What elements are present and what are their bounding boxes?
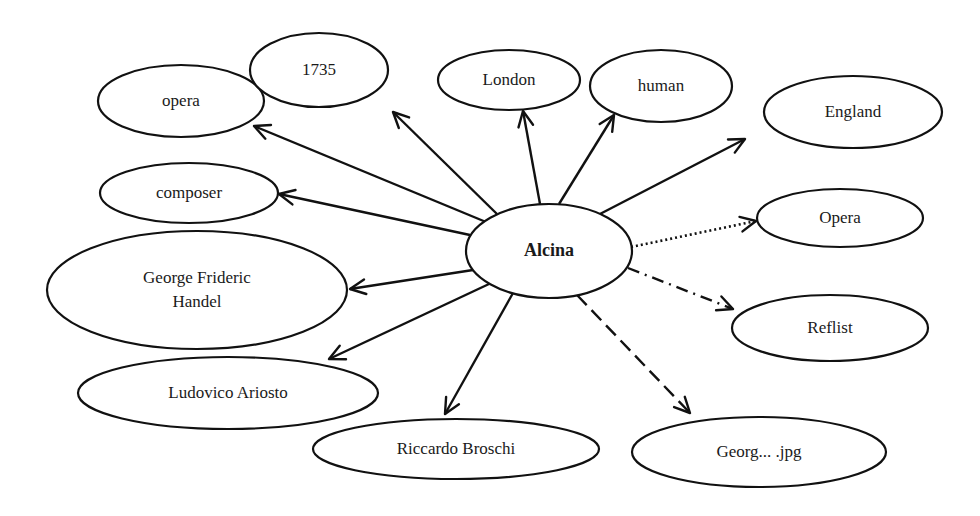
edge-to-ariosto (329, 284, 489, 359)
edge-to-reflist (628, 268, 733, 310)
knowledge-graph-diagram: opera1735LondonhumanEnglandcomposerGeorg… (0, 0, 980, 516)
nodes-layer: opera1735LondonhumanEnglandcomposerGeorg… (47, 33, 942, 487)
node-label: composer (156, 183, 222, 202)
edge-line (329, 284, 489, 359)
node-label: Riccardo Broschi (397, 439, 516, 458)
edge-to-london (519, 111, 541, 204)
node-london[interactable]: London (438, 50, 580, 110)
node-label: Ludovico Ariosto (168, 383, 287, 402)
edge-line (631, 221, 756, 247)
edge-to-composer (279, 190, 470, 235)
node-label: Reflist (807, 318, 853, 337)
edge-line (559, 115, 614, 204)
edge-line (279, 194, 470, 235)
node-year[interactable]: 1735 (250, 33, 388, 107)
node-label-line2: Handel (172, 292, 221, 311)
edge-to-year (393, 112, 497, 214)
edge-line (523, 111, 540, 204)
edge-line (577, 295, 690, 413)
node-label: Opera (819, 208, 861, 227)
node-broschi[interactable]: Riccardo Broschi (313, 419, 599, 479)
edge-to-england (598, 139, 745, 215)
node-england[interactable]: England (764, 76, 942, 148)
arrowhead-icon (600, 115, 614, 132)
center-node-label: Alcina (524, 240, 574, 260)
node-ellipse (47, 231, 347, 349)
node-reflist[interactable]: Reflist (732, 295, 928, 361)
node-ariosto[interactable]: Ludovico Ariosto (78, 357, 378, 429)
node-opera-class[interactable]: Opera (757, 189, 923, 247)
edge-to-broschi (445, 293, 513, 414)
node-opera-type[interactable]: opera (98, 65, 264, 137)
edge-line (598, 139, 745, 215)
node-handel[interactable]: George FridericHandel (47, 231, 347, 349)
edge-line (628, 268, 733, 309)
arrowhead-icon (740, 217, 757, 232)
node-label: 1735 (302, 60, 336, 79)
node-label: George Frideric (143, 268, 251, 287)
edge-to-opera-type (254, 125, 486, 222)
edge-to-handel (350, 270, 473, 294)
node-composer[interactable]: composer (100, 163, 278, 223)
edge-line (445, 293, 513, 414)
edge-line (350, 270, 473, 289)
node-alcina[interactable]: Alcina (466, 204, 632, 298)
edge-to-image (577, 295, 690, 413)
edge-line (254, 126, 486, 222)
node-image[interactable]: Georg... .jpg (632, 417, 886, 487)
edge-to-opera-class (631, 217, 756, 247)
node-label: human (638, 76, 685, 95)
node-label: Georg... .jpg (716, 442, 802, 461)
node-label: England (825, 102, 882, 121)
node-human[interactable]: human (590, 50, 732, 122)
edge-line (393, 112, 497, 214)
node-label: opera (162, 91, 200, 110)
edge-to-human (559, 115, 614, 204)
node-label: London (483, 70, 536, 89)
